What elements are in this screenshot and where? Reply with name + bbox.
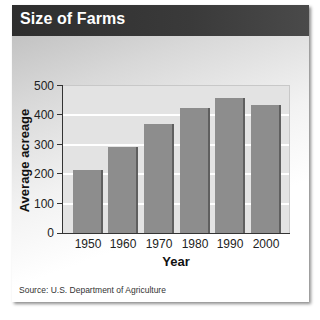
x-tick-label: 2000: [248, 237, 284, 251]
x-tick-label: 1950: [70, 237, 106, 251]
bar-1950: [73, 170, 103, 234]
y-tick-label: 0: [14, 227, 54, 239]
x-tick-label: 1980: [177, 237, 213, 251]
plot-area: [63, 85, 290, 234]
x-tick-label: 1970: [141, 237, 177, 251]
y-tick-label: 200: [14, 168, 54, 180]
bar-2000: [251, 105, 281, 234]
bar-1990: [215, 98, 245, 234]
chart-title: Size of Farms: [20, 10, 125, 28]
bar-1970: [144, 124, 174, 234]
bar-1960: [108, 147, 138, 234]
x-axis-line: [62, 233, 290, 234]
y-tick-label: 400: [14, 109, 54, 121]
x-tick-label: 1960: [105, 237, 141, 251]
source-note: Source: U.S. Department of Agriculture: [19, 285, 166, 295]
chart-card: Size of Farms Average acreage 500 400 30…: [12, 5, 309, 302]
bar-1980: [180, 108, 210, 234]
y-tick-label: 100: [14, 198, 54, 210]
y-tick-label: 500: [14, 80, 54, 92]
x-tick-label: 1990: [212, 237, 248, 251]
chart-header: Size of Farms: [12, 5, 309, 36]
x-axis-label: Year: [63, 254, 289, 269]
y-axis-line: [62, 85, 63, 234]
y-tick-label: 300: [14, 139, 54, 151]
